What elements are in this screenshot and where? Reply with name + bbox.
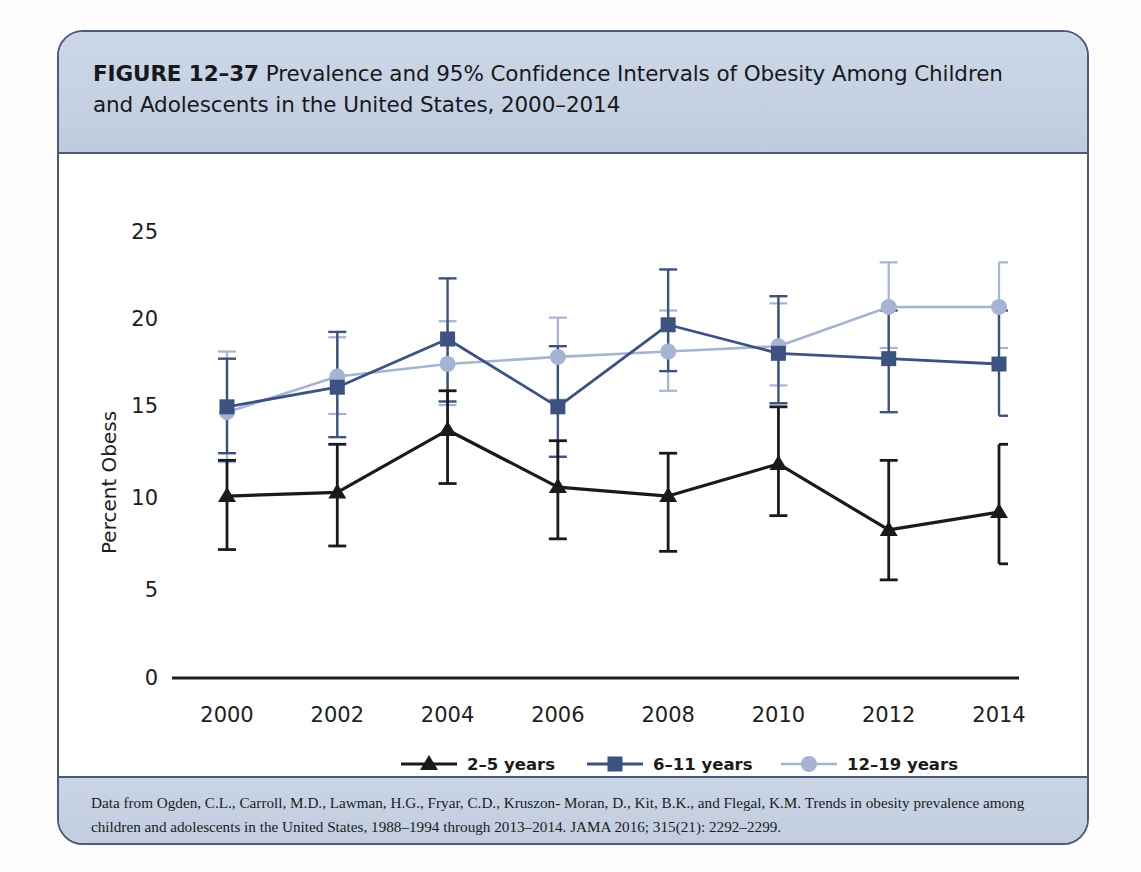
marker-square bbox=[220, 399, 235, 414]
legend-marker-square bbox=[608, 757, 623, 772]
x-tick-2000: 2000 bbox=[200, 703, 253, 727]
x-tick-2014: 2014 bbox=[972, 703, 1025, 727]
obesity-prevalence-line-chart: 25 20 15 10 5 0 Percent Obess 2000200220… bbox=[59, 154, 1086, 780]
source-line-1: Data from Ogden, C.L., Carroll, M.D., La… bbox=[91, 794, 910, 811]
marker-square bbox=[440, 332, 455, 347]
legend-label: 6–11 years bbox=[653, 755, 753, 774]
figure-page: FIGURE 12–37 Prevalence and 95% Confiden… bbox=[0, 0, 1141, 872]
legend-marker-circle bbox=[801, 756, 817, 772]
figure-title-line-2: and Adolescents in the United States, 20… bbox=[93, 92, 620, 117]
x-tick-2002: 2002 bbox=[311, 703, 364, 727]
legend-label: 2–5 years bbox=[467, 755, 555, 774]
x-tick-2010: 2010 bbox=[752, 703, 805, 727]
marker-square bbox=[771, 346, 786, 361]
marker-circle bbox=[660, 344, 676, 360]
marker-triangle bbox=[769, 455, 787, 470]
chart-area: 25 20 15 10 5 0 Percent Obess 2000200220… bbox=[59, 154, 1087, 780]
x-tick-2012: 2012 bbox=[862, 703, 915, 727]
y-tick-20: 20 bbox=[131, 307, 158, 331]
y-tick-5: 5 bbox=[145, 578, 158, 602]
figure-title: FIGURE 12–37 Prevalence and 95% Confiden… bbox=[93, 58, 1053, 120]
legend-item-12-19------: 12–19 years bbox=[781, 755, 958, 774]
y-axis-title: Percent Obess bbox=[97, 411, 121, 554]
figure-title-line-1: Prevalence and 95% Confidence Intervals … bbox=[266, 61, 1003, 86]
marker-square bbox=[992, 357, 1007, 372]
plot-layer bbox=[218, 262, 1008, 580]
y-tick-0: 0 bbox=[145, 666, 158, 690]
y-tick-15: 15 bbox=[131, 394, 158, 418]
y-axis-tick-labels: 25 20 15 10 5 0 bbox=[131, 220, 158, 690]
marker-square bbox=[330, 380, 345, 395]
x-tick-2004: 2004 bbox=[421, 703, 474, 727]
legend-item-2-5------: 2–5 years bbox=[401, 755, 555, 774]
marker-square bbox=[661, 317, 676, 332]
marker-circle bbox=[550, 349, 566, 365]
chart-legend: 2–5 years6–11 years12–19 years bbox=[401, 755, 958, 774]
marker-circle bbox=[881, 299, 897, 315]
legend-label: 12–19 years bbox=[847, 755, 958, 774]
marker-square bbox=[881, 351, 896, 366]
x-tick-2006: 2006 bbox=[531, 703, 584, 727]
marker-circle bbox=[991, 299, 1007, 315]
marker-triangle bbox=[328, 483, 346, 498]
source-citation: Data from Ogden, C.L., Carroll, M.D., La… bbox=[91, 791, 1057, 838]
marker-triangle bbox=[990, 503, 1008, 518]
legend-item-6-11------: 6–11 years bbox=[587, 755, 753, 774]
marker-circle bbox=[440, 356, 456, 372]
x-tick-2008: 2008 bbox=[641, 703, 694, 727]
marker-triangle bbox=[439, 421, 457, 436]
y-tick-25: 25 bbox=[131, 220, 158, 244]
figure-number: FIGURE 12–37 bbox=[93, 61, 259, 86]
figure-box: FIGURE 12–37 Prevalence and 95% Confiden… bbox=[57, 30, 1089, 845]
figure-header: FIGURE 12–37 Prevalence and 95% Confiden… bbox=[59, 32, 1087, 154]
x-axis-tick-labels: 20002002200420062008201020122014 bbox=[200, 703, 1025, 727]
y-tick-10: 10 bbox=[131, 486, 158, 510]
marker-square bbox=[550, 399, 565, 414]
figure-source-footer: Data from Ogden, C.L., Carroll, M.D., La… bbox=[59, 776, 1087, 843]
